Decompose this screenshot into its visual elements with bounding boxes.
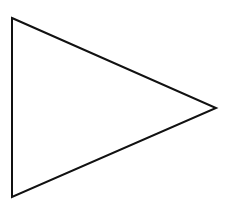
triangle-diagram — [0, 0, 231, 209]
right-pointing-triangle-shape — [12, 18, 216, 197]
diagram-canvas — [0, 0, 231, 209]
